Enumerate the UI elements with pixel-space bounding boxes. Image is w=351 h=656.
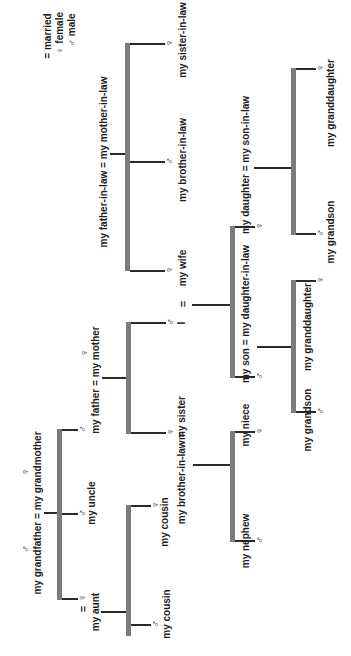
legend-married: = married xyxy=(43,13,53,58)
aunt-label: my aunt xyxy=(91,593,101,631)
female-icon: ♀ xyxy=(315,276,326,284)
father-mother-label: my father = my mother xyxy=(91,326,101,434)
male-icon: ♂ xyxy=(20,545,31,553)
cousin-label-1: my cousin xyxy=(160,497,170,546)
son-marriage-line xyxy=(257,346,292,348)
branch-wife xyxy=(130,270,165,272)
male-icon: ♂ xyxy=(164,157,175,165)
wife-label: my wife xyxy=(178,250,188,287)
cousin-label-2: my cousin xyxy=(162,589,172,638)
branch-self xyxy=(131,322,166,324)
female-icon: ♀ xyxy=(165,428,176,436)
son-couple-label: my son = my daughter-in-law xyxy=(241,245,251,383)
male-icon: ♂ xyxy=(254,372,265,380)
male-icon: ♂ xyxy=(150,620,161,628)
female-icon: ♀ xyxy=(77,594,88,602)
female-icon: ♀ xyxy=(164,39,175,47)
aunt-marriage-line xyxy=(101,611,127,613)
granddaughter-label-2: my granddaughter xyxy=(303,283,313,371)
sister-children-bar xyxy=(230,431,235,542)
parents-children-bar xyxy=(126,322,131,434)
niece-label: my niece xyxy=(241,404,251,447)
male-icon: ♂ xyxy=(77,425,88,433)
female-icon: ♀ xyxy=(164,266,175,274)
legend-female-label: female xyxy=(54,12,65,44)
male-icon: ♂ xyxy=(165,318,176,326)
branch-sister-in-law xyxy=(130,43,165,45)
in-law-children-bar xyxy=(125,43,130,271)
son-children-bar xyxy=(291,280,296,413)
married-icon: = xyxy=(78,606,89,612)
self-marriage-line xyxy=(192,304,231,306)
sister-in-law-label: my sister-in-law xyxy=(178,2,188,78)
female-icon: ♀ xyxy=(20,468,31,476)
male-icon: ♂ xyxy=(66,39,77,47)
male-icon: ♂ xyxy=(254,536,265,544)
male-icon: ♂ xyxy=(315,229,326,237)
cousins-bar xyxy=(126,505,131,636)
grandparents-label: my grandfather = my grandmother xyxy=(33,431,43,594)
branch-sister xyxy=(131,432,166,434)
branch-brother-in-law xyxy=(130,161,165,163)
in-law-marriage-line xyxy=(110,153,126,155)
brother-in-law-label: my brother-in-law xyxy=(178,118,188,202)
grandparents-marriage-line xyxy=(44,512,58,514)
legend-male: ♂ male xyxy=(67,13,77,46)
nephew-label: my nephew xyxy=(241,514,251,568)
daughter-children-bar xyxy=(291,68,296,235)
legend-male-label: male xyxy=(66,13,77,36)
brother-in-law-sister-label: my brother-in-law = xyxy=(177,432,187,525)
parents-marriage-line xyxy=(102,377,127,379)
grandparents-children-bar xyxy=(57,429,62,600)
self-children-bar xyxy=(230,226,235,378)
female-icon: ♀ xyxy=(254,427,265,435)
female-icon: ♀ xyxy=(54,46,65,54)
legend-married-label: married xyxy=(42,13,53,50)
female-icon: ♀ xyxy=(315,64,326,72)
married-icon: = xyxy=(42,53,53,59)
grandson-label-2: my grandson xyxy=(303,389,313,452)
female-icon: ♀ xyxy=(79,349,90,357)
daughter-marriage-line xyxy=(254,167,292,169)
uncle-label: my uncle xyxy=(87,481,97,524)
self-label: I xyxy=(177,322,187,325)
female-icon: ♀ xyxy=(254,222,265,230)
daughter-couple-label: my daughter = my son-in-law xyxy=(241,96,251,234)
granddaughter-label-1: my granddaughter xyxy=(326,59,336,147)
male-icon: ♂ xyxy=(315,407,326,415)
grandson-label-1: my grandson xyxy=(326,201,336,264)
sister-marriage-line xyxy=(193,464,231,466)
legend-female: ♀ female xyxy=(55,12,65,54)
in-law-parents-label: my father-in-law = my mother-in-law xyxy=(99,77,109,248)
married-icon: = xyxy=(178,301,189,307)
